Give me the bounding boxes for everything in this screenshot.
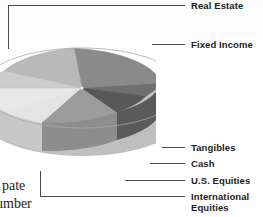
leader-line-international-equities-horizontal: [40, 196, 185, 197]
leader-line-real-estate-vertical: [8, 5, 9, 49]
pie-center-point: [80, 86, 83, 89]
label-real-estate: Real Estate: [191, 0, 243, 11]
leader-line-cash: [150, 163, 185, 164]
leader-line-us-equities: [125, 180, 185, 181]
leader-line-fixed-income: [152, 44, 185, 45]
leader-line-tangibles: [162, 147, 185, 148]
pie-chart-graphic: [0, 24, 156, 174]
leader-line-real-estate-horizontal: [8, 5, 185, 6]
document-text-fragment-1: pate: [2, 178, 25, 194]
label-tangibles: Tangibles: [191, 142, 236, 153]
label-us-equities: U.S. Equities: [191, 175, 250, 186]
label-international-equities: International Equities: [191, 191, 261, 213]
label-cash: Cash: [191, 158, 215, 169]
pie-chart-figure: Real Estate Fixed Income Tangibles Cash …: [0, 0, 263, 217]
label-fixed-income: Fixed Income: [191, 39, 253, 50]
pie-svg: [0, 24, 156, 174]
leader-line-international-equities-vertical: [40, 171, 41, 197]
document-text-fragment-2: umber: [0, 196, 32, 212]
pie-slice-fixed-income: [74, 48, 156, 88]
